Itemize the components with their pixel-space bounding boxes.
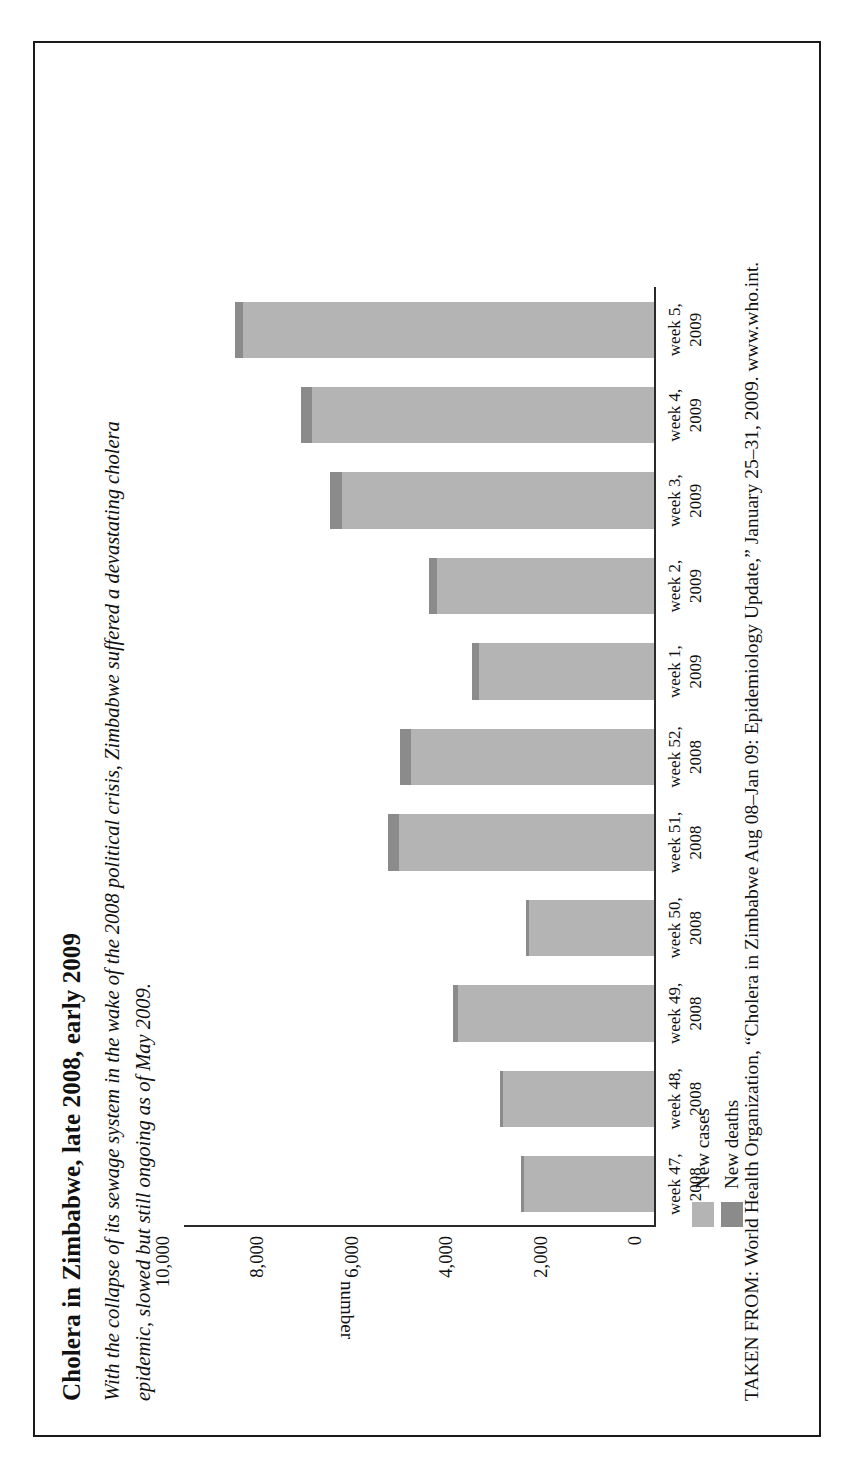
value-tick-label: 10,000 <box>152 1236 173 1287</box>
bar-segment-new-deaths[interactable] <box>499 1070 502 1126</box>
bar-segment-new-deaths[interactable] <box>235 301 243 357</box>
category-tick-label: week 4,2009 <box>664 372 706 457</box>
category-tick-label-line: week 50, <box>664 885 685 970</box>
category-tick-label-line: 2009 <box>685 287 706 372</box>
value-tick-label: 0 <box>624 1236 645 1245</box>
category-tick-label: week 49,2008 <box>664 970 706 1055</box>
bar-segment-new-deaths[interactable] <box>400 728 411 784</box>
category-tick-label: week 2,2009 <box>664 543 706 628</box>
category-tick-label-line: 2009 <box>685 543 706 628</box>
bar-group[interactable] <box>387 814 653 870</box>
figure-subtitle: With the collapse of its sewage system i… <box>97 291 159 1401</box>
bar-segment-new-cases[interactable] <box>528 899 653 955</box>
bar-segment-new-deaths[interactable] <box>525 899 528 955</box>
bar-segment-new-deaths[interactable] <box>387 814 398 870</box>
rotated-figure: Cholera in Zimbabwe, late 2008, early 20… <box>36 44 819 1435</box>
category-tick-label-line: 2008 <box>685 799 706 884</box>
category-tick-label-line: 2008 <box>685 885 706 970</box>
category-tick-label: week 51,2008 <box>664 799 706 884</box>
category-tick-label-line: week 1, <box>664 628 685 713</box>
category-tick-label-line: week 49, <box>664 970 685 1055</box>
legend-swatch-icon <box>692 1202 714 1227</box>
bar-group[interactable] <box>525 899 653 955</box>
bar-group[interactable] <box>499 1070 653 1126</box>
category-tick-label-line: week 47, <box>664 1141 685 1226</box>
category-tick-label: week 50,2008 <box>664 885 706 970</box>
category-tick-label-line: week 5, <box>664 287 685 372</box>
figure-subtitle-line-2: epidemic, slowed but still ongoing as of… <box>128 291 159 1401</box>
bar-group[interactable] <box>429 557 654 613</box>
category-tick-label-line: week 51, <box>664 799 685 884</box>
bar-segment-new-cases[interactable] <box>243 301 654 357</box>
figure-page-frame: Cholera in Zimbabwe, late 2008, early 20… <box>33 41 821 1437</box>
category-tick-label-line: 2009 <box>685 457 706 542</box>
figure-title: Cholera in Zimbabwe, late 2008, early 20… <box>58 932 86 1400</box>
category-tick-label-line: week 52, <box>664 714 685 799</box>
category-tick-label-line: week 48, <box>664 1056 685 1141</box>
category-tick-label-line: 2008 <box>685 970 706 1055</box>
bar-segment-new-cases[interactable] <box>399 814 654 870</box>
legend-item[interactable]: New cases <box>690 1099 716 1226</box>
bar-segment-new-cases[interactable] <box>458 985 654 1041</box>
bar-group[interactable] <box>330 472 654 528</box>
bar-segment-new-cases[interactable] <box>436 557 653 613</box>
category-tick-label: week 5,2009 <box>664 287 706 372</box>
value-tick-label: 8,000 <box>246 1236 267 1278</box>
bar-segment-new-cases[interactable] <box>410 728 653 784</box>
bar-chart-plot-area: 02,0004,0006,0008,00010,000 week 47,2008… <box>184 287 656 1227</box>
value-axis-line <box>184 1225 656 1227</box>
bar-segment-new-cases[interactable] <box>311 387 653 443</box>
category-tick-label: week 3,2009 <box>664 457 706 542</box>
category-tick-label: week 1,2009 <box>664 628 706 713</box>
bar-group[interactable] <box>521 1156 654 1212</box>
category-tick-label-line: 2009 <box>685 372 706 457</box>
bar-group[interactable] <box>472 643 654 699</box>
bar-segment-new-cases[interactable] <box>502 1070 653 1126</box>
category-tick-label-line: week 4, <box>664 372 685 457</box>
bar-segment-new-deaths[interactable] <box>300 387 311 443</box>
bar-group[interactable] <box>400 728 654 784</box>
bar-segment-new-deaths[interactable] <box>429 557 437 613</box>
bar-segment-new-deaths[interactable] <box>472 643 479 699</box>
value-tick-label: 6,000 <box>341 1236 362 1278</box>
category-tick-label-line: 2008 <box>685 714 706 799</box>
bar-segment-new-deaths[interactable] <box>330 472 342 528</box>
bar-group[interactable] <box>300 387 653 443</box>
bar-segment-new-cases[interactable] <box>342 472 654 528</box>
value-axis-title: number <box>336 1280 358 1338</box>
category-tick-label-line: week 2, <box>664 543 685 628</box>
bar-segment-new-deaths[interactable] <box>452 985 457 1041</box>
value-tick-label: 4,000 <box>435 1236 456 1278</box>
bar-group[interactable] <box>452 985 653 1041</box>
bar-group[interactable] <box>235 301 654 357</box>
figure-source-note: TAKEN FROM: World Health Organization, “… <box>736 261 767 1401</box>
bar-segment-new-cases[interactable] <box>479 643 654 699</box>
legend-item-label: New cases <box>690 1108 716 1189</box>
category-tick-label-line: week 3, <box>664 457 685 542</box>
figure-subtitle-line-1: With the collapse of its sewage system i… <box>97 291 128 1401</box>
value-tick-label: 2,000 <box>530 1236 551 1278</box>
category-tick-label-line: 2009 <box>685 628 706 713</box>
category-tick-label: week 52,2008 <box>664 714 706 799</box>
bar-segment-new-cases[interactable] <box>524 1156 654 1212</box>
